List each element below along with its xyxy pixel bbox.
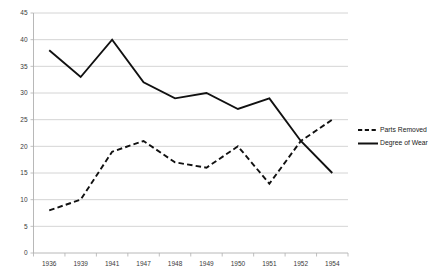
y-tick-label: 35 [20, 63, 28, 70]
y-tick-label: 25 [20, 116, 28, 123]
x-tick-label: 1954 [325, 260, 340, 267]
x-tick-label: 1941 [105, 260, 120, 267]
x-tick-label: 1936 [42, 260, 57, 267]
y-tick-label: 20 [20, 143, 28, 150]
y-tick-label: 5 [24, 223, 28, 230]
y-tick-label: 45 [20, 9, 28, 16]
x-tick-label: 1950 [231, 260, 246, 267]
legend-label-1: Degree of Wear [380, 139, 429, 147]
x-tick-label: 1951 [262, 260, 277, 267]
x-tick-label: 1939 [73, 260, 88, 267]
x-tick-label: 1947 [136, 260, 151, 267]
x-tick-label: 1949 [199, 260, 214, 267]
y-tick-label: 0 [24, 249, 28, 256]
x-tick-label: 1948 [168, 260, 183, 267]
chart-background [0, 0, 436, 275]
y-tick-label: 30 [20, 89, 28, 96]
y-tick-label: 40 [20, 36, 28, 43]
y-tick-label: 10 [20, 196, 28, 203]
x-tick-label: 1952 [294, 260, 309, 267]
line-chart: 051015202530354045 193619391941194719481… [0, 0, 436, 275]
y-tick-label: 15 [20, 169, 28, 176]
chart-canvas: 051015202530354045 193619391941194719481… [0, 0, 436, 275]
legend-label-0: Parts Removed [380, 126, 427, 133]
